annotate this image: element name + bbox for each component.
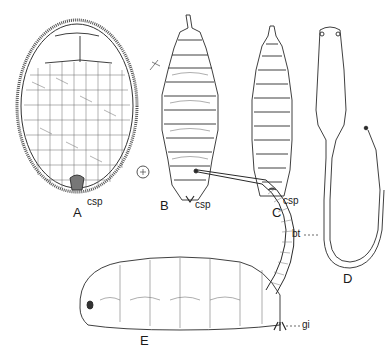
- panel-d-label: D: [343, 272, 352, 285]
- csp-label-c: csp: [283, 196, 299, 206]
- panel-a-label: A: [73, 206, 82, 219]
- bt-label: bt: [292, 229, 300, 239]
- csp-label-b: csp: [195, 200, 211, 210]
- panel-d-drawing: [316, 27, 384, 268]
- panel-e-label: E: [140, 334, 149, 347]
- panel-b-label: B: [160, 199, 169, 212]
- panel-c-label: C: [272, 206, 281, 219]
- panel-c-drawing: [252, 26, 292, 196]
- panel-a-drawing: [17, 20, 137, 192]
- panel-e-drawing: [80, 169, 294, 331]
- csp-label-a: csp: [87, 197, 103, 207]
- gi-label: gi: [302, 320, 310, 330]
